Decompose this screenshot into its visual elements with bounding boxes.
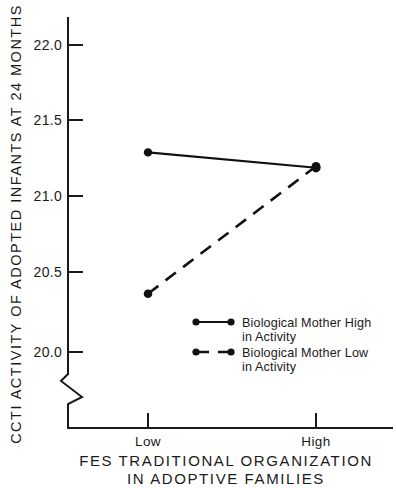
y-tick-labels-group: 22.0 21.5 21.0 20.5 20.0 [34, 37, 62, 360]
series-low-point-low [144, 289, 153, 298]
line-chart-svg: 22.0 21.5 21.0 20.5 20.0 Low High FES TR… [0, 0, 396, 488]
legend-swatch-dashed-dot-left [192, 348, 199, 355]
y-tick-label-1: 21.5 [34, 112, 62, 128]
x-tick-labels-group: Low High [135, 434, 331, 449]
chart-legend: Biological Mother High in Activity Biolo… [192, 316, 371, 374]
y-axis-break-zigzag [61, 374, 82, 428]
legend-swatch-dashed-dot-right [227, 348, 234, 355]
legend-swatch-solid-dot-right [227, 318, 234, 325]
series-low-point-high [312, 162, 321, 171]
y-axis-title: CCTI ACTIVITY OF ADOPTED INFANTS AT 24 M… [8, 4, 24, 444]
legend-label-high-line-1: Biological Mother High [242, 316, 371, 330]
legend-label-high-line-2: in Activity [242, 330, 297, 344]
x-ticks-group [148, 413, 316, 428]
legend-label-low-line-1: Biological Mother Low [242, 346, 369, 360]
legend-label-low-line-2: in Activity [242, 360, 297, 374]
legend-item-biological-mother-high[interactable]: Biological Mother High in Activity [192, 316, 371, 344]
chart-figure: 22.0 21.5 21.0 20.5 20.0 Low High FES TR… [0, 0, 396, 488]
legend-swatch-solid-dot-left [192, 318, 199, 325]
series-low-line [148, 166, 316, 293]
x-axis-title-line-1: FES TRADITIONAL ORGANIZATION [79, 452, 373, 469]
series-biological-mother-low [144, 162, 321, 298]
x-axis-title-line-2: IN ADOPTIVE FAMILIES [127, 470, 325, 487]
series-high-line [148, 152, 316, 167]
y-ticks-group [68, 45, 83, 352]
y-tick-label-0: 22.0 [34, 37, 62, 53]
y-tick-label-4: 20.0 [34, 344, 62, 360]
y-tick-label-3: 20.5 [34, 264, 62, 280]
series-high-point-low [144, 148, 152, 156]
x-tick-label-low: Low [135, 434, 161, 449]
y-tick-label-2: 21.0 [34, 188, 62, 204]
series-biological-mother-high [144, 148, 321, 172]
axis-group [61, 18, 392, 428]
legend-item-biological-mother-low[interactable]: Biological Mother Low in Activity [192, 346, 369, 374]
x-tick-label-high: High [301, 434, 330, 449]
x-axis-title: FES TRADITIONAL ORGANIZATION IN ADOPTIVE… [79, 452, 373, 487]
